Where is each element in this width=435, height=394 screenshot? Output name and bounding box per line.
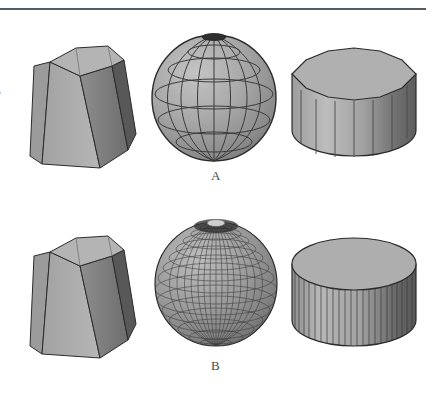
row-label-b: B: [211, 358, 220, 374]
margin-glyph: e: [0, 86, 1, 98]
row-label-a: A: [211, 168, 221, 184]
top-horizontal-rule: [0, 8, 426, 10]
row-b-faceted-sphere: [152, 208, 280, 356]
row-a-faceted-sphere: [148, 18, 280, 168]
figure-panel: e: [0, 0, 435, 394]
row-b-hexagonal-frustum: [28, 228, 140, 360]
row-a-hexagonal-frustum: [28, 38, 140, 170]
row-a-faceted-cylinder: [288, 38, 420, 170]
row-b-faceted-cylinder: [288, 228, 420, 360]
